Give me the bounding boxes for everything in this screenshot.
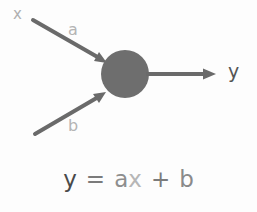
equation-token-y: y bbox=[63, 168, 77, 191]
equation: y = a x + b bbox=[0, 168, 257, 191]
output-label-y: y bbox=[228, 62, 239, 81]
input-label-x: x bbox=[13, 7, 22, 22]
bias-label-b: b bbox=[68, 118, 78, 134]
equation-token-x: x bbox=[128, 168, 142, 191]
summation-node bbox=[101, 50, 149, 98]
equation-token-a: a bbox=[114, 168, 128, 191]
equation-token-b: b bbox=[179, 168, 194, 191]
equation-token-plus: + bbox=[151, 168, 170, 191]
diagram-canvas: x a b y y = a x + b bbox=[0, 0, 257, 212]
weight-label-a: a bbox=[68, 22, 78, 38]
equation-token-eq: = bbox=[86, 168, 105, 191]
edge-y-arrow bbox=[146, 69, 216, 80]
edge-y-arrowhead bbox=[203, 69, 216, 80]
edge-a-line bbox=[33, 20, 101, 59]
